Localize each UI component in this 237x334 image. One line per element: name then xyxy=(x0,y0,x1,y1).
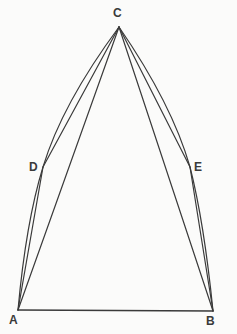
segment-ad-path xyxy=(18,167,43,310)
base-ab-path xyxy=(18,310,213,311)
chord-dc-path xyxy=(43,27,119,167)
chord-ec-path xyxy=(119,27,190,167)
geometry-figure: C D E A B xyxy=(0,0,237,334)
vertex-label-e: E xyxy=(194,161,202,173)
vertex-label-a: A xyxy=(9,314,18,326)
vertex-label-d: D xyxy=(29,161,38,173)
vertex-label-b: B xyxy=(206,315,215,327)
segment-be-path xyxy=(190,167,213,311)
vertex-label-c: C xyxy=(113,7,122,19)
